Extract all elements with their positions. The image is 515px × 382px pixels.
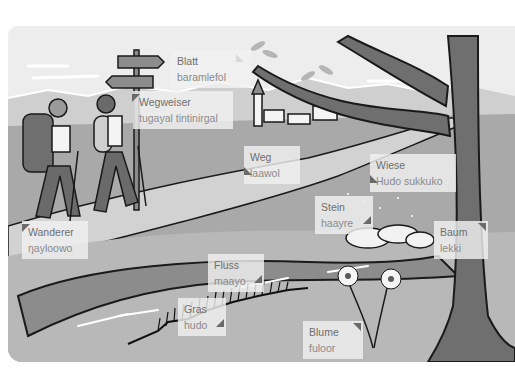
- translation-stein: haayre: [321, 215, 367, 231]
- gras-pointer-icon: [216, 319, 224, 327]
- stein-pointer-icon: [363, 216, 371, 224]
- translation-gras: hudo: [184, 317, 220, 333]
- translation-wiese: Hudo sukkuko: [376, 173, 450, 189]
- landscape-drawing: [8, 26, 515, 362]
- translation-wegweiser: tugayal tintinirgal: [139, 110, 227, 126]
- label-wegweiser[interactable]: Wegweiser tugayal tintinirgal: [133, 91, 233, 129]
- weg-pointer-icon: [244, 167, 252, 175]
- term-stein: Stein: [321, 199, 367, 215]
- term-gras: Gras: [184, 301, 220, 317]
- fluss-pointer-icon: [254, 275, 262, 283]
- label-gras[interactable]: Gras hudo: [178, 298, 226, 336]
- term-fluss: Fluss: [214, 257, 258, 273]
- wegweiser-pointer-icon: [132, 94, 140, 102]
- term-wiese: Wiese: [376, 157, 450, 173]
- label-blatt[interactable]: Blatt baramlefol: [171, 50, 251, 88]
- baum-pointer-icon: [478, 223, 486, 231]
- label-wiese[interactable]: Wiese Hudo sukkuko: [370, 154, 456, 192]
- translation-wanderer: ŋayloowo: [28, 240, 82, 256]
- term-wegweiser: Wegweiser: [139, 94, 227, 110]
- term-baum: Baum: [440, 224, 482, 240]
- term-wanderer: Wanderer: [28, 224, 82, 240]
- translation-blatt: baramlefol: [177, 69, 245, 85]
- translation-baum: lekki: [440, 240, 482, 256]
- label-wanderer[interactable]: Wanderer ŋayloowo: [22, 221, 88, 259]
- translation-fluss: maayo: [214, 273, 258, 289]
- landscape-illustration: Blatt baramlefol Wegweiser tugayal tinti…: [8, 26, 515, 362]
- label-fluss[interactable]: Fluss maayo: [208, 254, 264, 292]
- translation-blume: fuloor: [309, 340, 357, 356]
- translation-weg: laawol: [250, 165, 294, 181]
- term-blatt: Blatt: [177, 53, 245, 69]
- term-weg: Weg: [250, 149, 294, 165]
- wiese-pointer-icon: [370, 175, 378, 183]
- label-stein[interactable]: Stein haayre: [315, 196, 373, 234]
- label-weg[interactable]: Weg laawol: [244, 146, 300, 184]
- blume-pointer-icon: [353, 323, 361, 331]
- wanderer-pointer-icon: [22, 224, 30, 232]
- term-blume: Blume: [309, 324, 357, 340]
